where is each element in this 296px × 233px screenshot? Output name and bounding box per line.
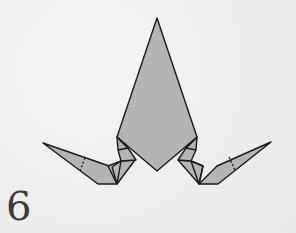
- origami-model: [0, 0, 296, 233]
- right-leg: [178, 137, 271, 184]
- left-leg: [43, 137, 136, 184]
- step-number: 6: [6, 186, 31, 226]
- head-kite: [117, 18, 197, 171]
